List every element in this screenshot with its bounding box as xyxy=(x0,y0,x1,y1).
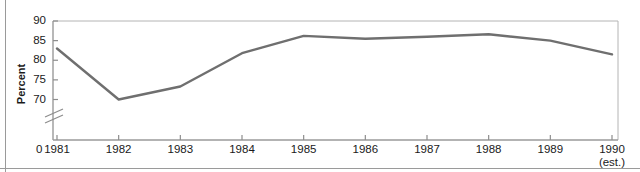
x-tick-sublabel-est: (est.) xyxy=(582,156,640,168)
x-tick-label: 1982 xyxy=(89,143,149,155)
x-tick-label: 1987 xyxy=(397,143,457,155)
x-tick-label: 1989 xyxy=(520,143,580,155)
x-tick-label: 1985 xyxy=(274,143,334,155)
x-axis-ticks xyxy=(57,135,612,140)
x-tick-label: 1988 xyxy=(459,143,519,155)
y-tick-label: 70 xyxy=(14,93,46,105)
chart-figure: Percent 7075808590 198119821983198419851… xyxy=(0,0,640,172)
x-tick-label: 1990 xyxy=(582,143,640,155)
y-axis-ticks xyxy=(53,21,58,100)
x-tick-label: 1983 xyxy=(150,143,210,155)
x-tick-label: 1984 xyxy=(212,143,272,155)
y-tick-label: 75 xyxy=(14,73,46,85)
y-tick-label: 80 xyxy=(14,53,46,65)
x-tick-label: 1986 xyxy=(335,143,395,155)
axis-break-icon xyxy=(45,109,63,123)
y-tick-label: 85 xyxy=(14,34,46,46)
data-series-line xyxy=(57,34,612,99)
axis-origin-label: 0 xyxy=(36,143,42,155)
y-tick-label: 90 xyxy=(14,14,46,26)
